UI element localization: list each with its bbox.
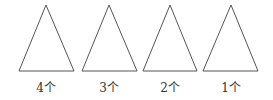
triangle-4 (203, 5, 258, 71)
triangle-3 (143, 5, 197, 71)
triangle-2 (82, 5, 137, 71)
triangle-2-label: 3个 (89, 78, 129, 95)
triangle-1 (19, 5, 74, 71)
triangle-3-label: 2个 (150, 78, 190, 95)
triangle-1-label: 4个 (26, 78, 66, 95)
triangle-4-label: 1个 (211, 78, 251, 95)
